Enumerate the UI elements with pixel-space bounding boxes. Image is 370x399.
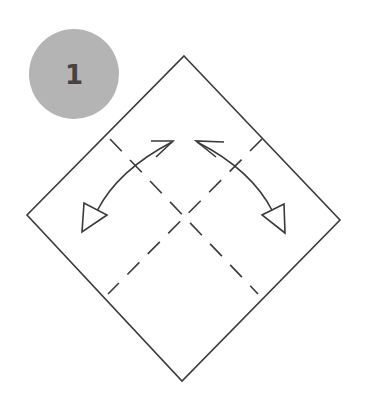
right-fold-arrow-icon (196, 141, 285, 233)
diagram-canvas (0, 0, 370, 399)
paper-square (27, 56, 340, 381)
left-fold-arrow-icon (82, 141, 173, 232)
origami-step-diagram: 1 (0, 0, 370, 399)
